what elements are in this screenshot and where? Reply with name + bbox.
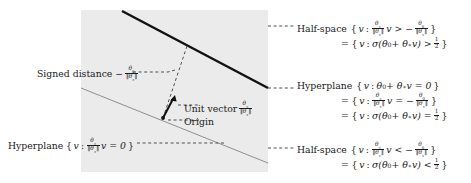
theta0-over-norm-fraction: θ0 ‖θ∗‖ bbox=[416, 93, 429, 108]
thetastar-over-norm-fraction: θ∗ ‖θ∗‖ bbox=[87, 138, 100, 153]
set-close-brace: } bbox=[434, 81, 440, 91]
equals-sign: = bbox=[341, 96, 349, 106]
hyperplane-right-tag: Hyperplane bbox=[297, 81, 352, 91]
set-close-brace: } bbox=[430, 24, 436, 34]
set-open-brace: { bbox=[356, 81, 362, 91]
equals-sign: = bbox=[341, 160, 349, 170]
minus-sign: − bbox=[115, 69, 123, 79]
set-colon: : bbox=[366, 39, 369, 49]
set-colon: : bbox=[366, 111, 369, 121]
fraction-denominator: 2 bbox=[434, 164, 439, 171]
set-variable: v bbox=[359, 111, 364, 121]
sigmoid-expression: σ(θ bbox=[372, 111, 388, 121]
theta0-over-norm-fraction: θ0 ‖θ∗‖ bbox=[415, 21, 428, 36]
theta0-over-norm-fraction: θ0 ‖θ∗‖ bbox=[415, 142, 428, 157]
equals-sign: = bbox=[341, 39, 349, 49]
set-colon: : bbox=[366, 160, 369, 170]
fraction-numerator: θ0 bbox=[418, 93, 425, 100]
fraction-numerator: θ∗ bbox=[90, 138, 97, 145]
fraction-denominator: 2 bbox=[434, 115, 439, 122]
unit-vector-text: Unit vector bbox=[184, 104, 237, 114]
halfspace-bottom-tag: Half-space bbox=[297, 145, 347, 155]
sigmoid-expression2: + θ bbox=[391, 111, 407, 121]
set-close-brace: } bbox=[442, 39, 448, 49]
hyperplane-right-line3: = { v : σ(θ 0 + θ ∗ v) = 1 2 } bbox=[297, 108, 448, 123]
hyperplane-left-expression: Hyperplane { v : θ∗ ‖θ∗‖ v = 0 } bbox=[8, 138, 134, 153]
set-variable: v bbox=[359, 39, 364, 49]
hyperplane-right-label: Hyperplane { v : θ 0 + θ ∗ v = 0 } = { v… bbox=[297, 78, 448, 123]
thetastar-term: + θ bbox=[386, 81, 402, 91]
thetastar-over-norm-fraction: θ∗ ‖θ∗‖ bbox=[372, 93, 385, 108]
set-variable: v bbox=[358, 24, 363, 34]
thetastar-over-norm-fraction: θ∗ ‖θ∗‖ bbox=[372, 142, 385, 157]
hyperplane-left-equation: v = 0 bbox=[101, 141, 126, 151]
thetastar-over-norm-fraction: θ∗ ‖θ∗‖ bbox=[239, 101, 252, 116]
hyperplane-left-tag: Hyperplane bbox=[8, 141, 63, 151]
halfspace-top-label: Half-space { v : θ∗ ‖θ∗‖ v > − θ0 ‖θ∗‖ }… bbox=[297, 21, 448, 51]
set-variable: v bbox=[364, 81, 369, 91]
set-open-brace: { bbox=[352, 160, 358, 170]
fraction-numerator: θ∗ bbox=[242, 101, 249, 108]
thetastar-sub: ∗ bbox=[402, 84, 406, 90]
set-open-brace: { bbox=[352, 39, 358, 49]
hyperplane-right-line1: Hyperplane { v : θ 0 + θ ∗ v = 0 } bbox=[297, 78, 448, 93]
fraction-denominator: ‖θ∗‖ bbox=[239, 108, 252, 116]
hyperplane-left-label: Hyperplane { v : θ∗ ‖θ∗‖ v = 0 } bbox=[8, 138, 134, 153]
halfspace-bottom-line1: Half-space { v : θ∗ ‖θ∗‖ v < − θ0 ‖θ∗‖ } bbox=[297, 142, 448, 157]
set-variable: v bbox=[74, 141, 79, 151]
signed-distance-expression: Signed distance − θ0 ‖θ∗‖ bbox=[37, 66, 138, 81]
equals-sign: = bbox=[341, 111, 349, 121]
origin-label: Origin bbox=[184, 117, 214, 127]
fraction-denominator: ‖θ∗‖ bbox=[125, 73, 138, 81]
fraction-denominator: 2 bbox=[434, 43, 439, 50]
figure-canvas: Signed distance − θ0 ‖θ∗‖ Unit vector θ∗… bbox=[0, 0, 471, 183]
fraction-numerator: θ0 bbox=[418, 142, 425, 149]
hyperplane-right-equation: v = 0 bbox=[407, 81, 432, 91]
thetastar-over-norm-fraction: θ∗ ‖θ∗‖ bbox=[372, 21, 385, 36]
sigmoid-relation: v) = bbox=[412, 111, 432, 121]
halfspace-top-line2: = { v : σ(θ 0 + θ ∗ v) > 1 2 } bbox=[297, 36, 448, 51]
theta0-over-norm-fraction: θ0 ‖θ∗‖ bbox=[125, 66, 138, 81]
fraction-numerator: θ∗ bbox=[374, 142, 381, 149]
set-colon: : bbox=[366, 145, 369, 155]
one-half-fraction: 1 2 bbox=[434, 158, 439, 171]
signed-distance-text: Signed distance bbox=[37, 69, 112, 79]
one-half-fraction: 1 2 bbox=[434, 109, 439, 122]
sigmoid-substar: ∗ bbox=[408, 163, 412, 169]
sigmoid-sub0: 0 bbox=[388, 114, 392, 120]
hyperplane-right-relation: v = − bbox=[387, 96, 414, 106]
fraction-numerator: θ0 bbox=[128, 66, 135, 73]
fraction-numerator: θ0 bbox=[418, 21, 425, 28]
fraction-numerator: θ∗ bbox=[374, 21, 381, 28]
halfspace-top-tag: Half-space bbox=[297, 24, 347, 34]
sigmoid-expression: σ(θ bbox=[372, 160, 388, 170]
signed-distance-label: Signed distance − θ0 ‖θ∗‖ bbox=[37, 66, 138, 81]
theta0-sub: 0 bbox=[382, 84, 386, 90]
sigmoid-expression2: + θ bbox=[391, 39, 407, 49]
set-close-brace: } bbox=[442, 111, 448, 121]
one-half-fraction: 1 2 bbox=[434, 37, 439, 50]
halfspace-top-relation: v > − bbox=[386, 24, 413, 34]
halfspace-bottom-label: Half-space { v : θ∗ ‖θ∗‖ v < − θ0 ‖θ∗‖ }… bbox=[297, 142, 448, 172]
halfspace-bottom-relation: v < − bbox=[386, 145, 413, 155]
set-close-brace: } bbox=[128, 141, 134, 151]
hyperplane-right-line2: = { v : θ∗ ‖θ∗‖ v = − θ0 ‖θ∗‖ } bbox=[297, 93, 448, 108]
set-close-brace: } bbox=[430, 145, 436, 155]
set-variable: v bbox=[358, 145, 363, 155]
set-variable: v bbox=[359, 96, 364, 106]
set-colon: : bbox=[371, 81, 374, 91]
set-close-brace: } bbox=[442, 160, 448, 170]
sigmoid-expression: σ(θ bbox=[372, 39, 388, 49]
sigmoid-substar: ∗ bbox=[408, 114, 412, 120]
set-open-brace: { bbox=[352, 96, 358, 106]
sigmoid-relation: v) < bbox=[412, 160, 432, 170]
set-variable: v bbox=[359, 160, 364, 170]
fraction-denominator: ‖θ∗‖ bbox=[87, 145, 100, 153]
fraction-numerator: θ∗ bbox=[375, 93, 382, 100]
sigmoid-substar: ∗ bbox=[408, 42, 412, 48]
sigmoid-sub0: 0 bbox=[388, 163, 392, 169]
set-colon: : bbox=[81, 141, 84, 151]
set-open-brace: { bbox=[66, 141, 72, 151]
set-colon: : bbox=[366, 96, 369, 106]
set-close-brace: } bbox=[431, 96, 437, 106]
